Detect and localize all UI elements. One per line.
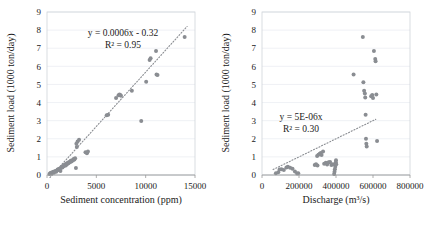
- y-tick-label: 4: [37, 98, 42, 108]
- data-point: [363, 92, 367, 96]
- data-point: [156, 73, 160, 77]
- left-x-tick-labels: 050001000015000: [45, 175, 207, 191]
- data-point: [106, 113, 110, 117]
- chart-panel-left: 0123456789 050001000015000 Sediment conc…: [0, 0, 215, 225]
- data-point: [154, 49, 158, 53]
- data-point: [334, 162, 338, 166]
- y-tick-label: 2: [252, 134, 257, 144]
- data-point: [119, 94, 123, 98]
- data-point: [183, 35, 187, 39]
- y-tick-label: 4: [252, 98, 257, 108]
- data-point: [149, 56, 153, 60]
- y-tick-label: 1: [252, 152, 257, 162]
- right-y-tick-labels: 0123456789: [252, 7, 257, 180]
- data-point: [365, 144, 369, 148]
- data-point: [73, 156, 77, 160]
- data-point: [372, 49, 376, 53]
- data-point: [361, 35, 365, 39]
- y-tick-label: 6: [252, 62, 257, 72]
- y-tick-label: 7: [252, 43, 257, 53]
- x-tick-label: 800000: [397, 181, 425, 191]
- data-point: [363, 95, 367, 99]
- data-point: [374, 59, 378, 63]
- x-tick-label: 10000: [134, 181, 157, 191]
- right-plot-area: [262, 12, 410, 176]
- data-point: [139, 119, 143, 123]
- data-point: [130, 89, 134, 93]
- data-point: [320, 153, 324, 157]
- y-tick-label: 0: [252, 170, 257, 180]
- data-point: [352, 72, 356, 76]
- data-point: [371, 96, 375, 100]
- right-x-tick-labels: 0200000400000600000800000: [260, 175, 424, 191]
- data-point: [316, 164, 320, 168]
- data-point: [361, 80, 365, 84]
- left-y-axis-title: Sediment load (1000 ton/day): [5, 33, 17, 152]
- data-point: [374, 92, 378, 96]
- data-point: [375, 139, 379, 143]
- right-r2-label: R² = 0.30: [283, 124, 319, 134]
- data-point: [364, 113, 368, 117]
- data-point: [75, 145, 79, 149]
- data-point: [86, 149, 90, 153]
- right-y-axis-title: Sediment load (1000 ton/day): [220, 33, 232, 152]
- y-tick-label: 9: [37, 7, 42, 17]
- left-equation-label: y = 0.0006x - 0.32: [88, 28, 159, 38]
- right-chart-svg: 0123456789 0200000400000600000800000 Dis…: [215, 0, 430, 225]
- data-point: [74, 166, 78, 170]
- x-tick-label: 0: [45, 181, 50, 191]
- figure-two-panel-scatter: 0123456789 050001000015000 Sediment conc…: [0, 0, 430, 225]
- y-tick-label: 8: [252, 25, 257, 35]
- left-chart-svg: 0123456789 050001000015000 Sediment conc…: [0, 0, 215, 225]
- x-tick-label: 600000: [360, 181, 388, 191]
- data-point: [321, 149, 325, 153]
- x-tick-label: 400000: [323, 181, 351, 191]
- chart-panel-right: 0123456789 0200000400000600000800000 Dis…: [215, 0, 430, 225]
- x-tick-label: 5000: [87, 181, 106, 191]
- y-tick-label: 5: [252, 80, 257, 90]
- data-point: [334, 158, 338, 162]
- y-tick-label: 3: [252, 116, 257, 126]
- data-point: [144, 80, 148, 84]
- y-tick-label: 5: [37, 80, 42, 90]
- y-tick-label: 7: [37, 43, 42, 53]
- left-r2-label: R² = 0.95: [105, 40, 141, 50]
- y-tick-label: 1: [37, 152, 42, 162]
- y-tick-label: 2: [37, 134, 42, 144]
- data-point: [364, 137, 368, 141]
- data-point: [296, 171, 300, 175]
- x-tick-label: 0: [260, 181, 265, 191]
- right-equation-label: y = 5E-06x: [280, 112, 323, 122]
- right-x-axis-title: Discharge (m³/s): [303, 194, 370, 206]
- left-y-tick-labels: 0123456789: [37, 7, 42, 180]
- y-tick-label: 9: [252, 7, 257, 17]
- left-x-axis-title: Sediment concentration (ppm): [60, 194, 182, 206]
- y-tick-label: 8: [37, 25, 42, 35]
- data-point: [77, 138, 81, 142]
- y-tick-label: 0: [37, 170, 42, 180]
- x-tick-label: 200000: [286, 181, 314, 191]
- y-tick-label: 6: [37, 62, 42, 72]
- x-tick-label: 15000: [184, 181, 207, 191]
- y-tick-label: 3: [37, 116, 42, 126]
